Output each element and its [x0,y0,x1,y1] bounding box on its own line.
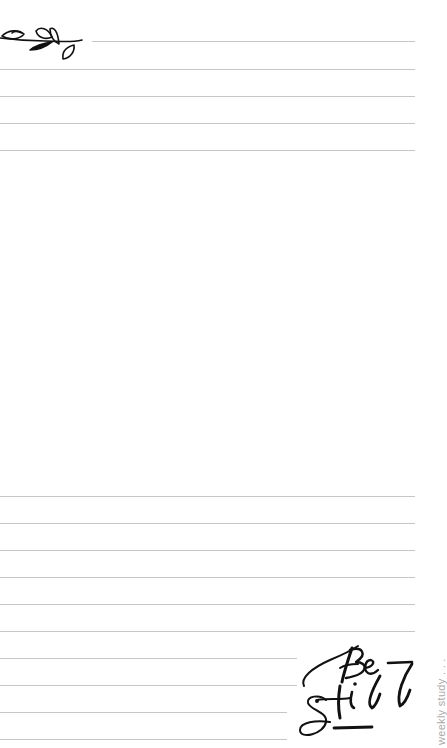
weekly-study-label: weekly study . . . [436,658,447,745]
writing-line[interactable] [0,150,415,151]
writing-line[interactable] [0,712,287,713]
writing-line[interactable] [0,496,415,497]
writing-line[interactable] [0,523,415,524]
writing-line[interactable] [92,41,415,42]
writing-line[interactable] [0,550,415,551]
olive-sprig-icon [0,22,90,66]
writing-line[interactable] [0,577,415,578]
be-still-lettering-icon: Be Still [296,640,418,744]
writing-line[interactable] [0,658,297,659]
writing-line[interactable] [0,739,287,740]
writing-line[interactable] [0,685,297,686]
writing-line[interactable] [0,631,415,632]
writing-line[interactable] [0,604,415,605]
writing-line[interactable] [0,69,415,70]
writing-line[interactable] [0,123,415,124]
writing-line[interactable] [0,96,415,97]
